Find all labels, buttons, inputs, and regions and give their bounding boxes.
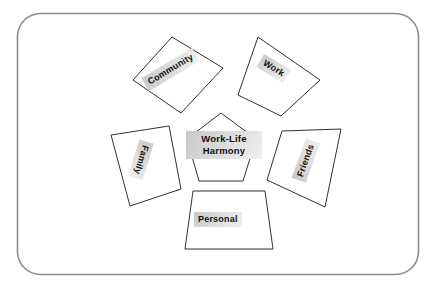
center-label-line2: Harmony	[203, 145, 246, 156]
center-label-work-life-harmony: Work-Life Harmony	[186, 131, 262, 159]
diagram-canvas: Work-Life Harmony Community Work Friends…	[0, 0, 441, 290]
node-label-personal: Personal	[194, 212, 242, 227]
center-label-line1: Work-Life	[201, 133, 246, 144]
